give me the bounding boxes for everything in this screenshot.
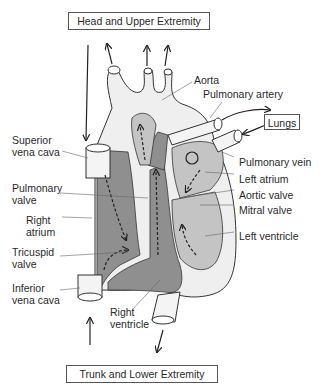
superior-vena-cava: [86, 144, 110, 178]
label-right-ventricle-line1: Right: [110, 306, 149, 318]
label-tricuspid-valve: Tricuspid valve: [12, 246, 54, 270]
label-right-atrium-line1: Right: [26, 214, 55, 226]
descending-aorta: [152, 292, 180, 324]
label-pulmonary-vein: Pulmonary vein: [239, 156, 311, 168]
label-aorta: Aorta: [194, 74, 219, 86]
label-right-atrium-line2: atrium: [26, 226, 55, 238]
label-aortic-valve: Aortic valve: [239, 189, 293, 201]
label-superior-line1: Superior: [12, 134, 60, 146]
label-inferior-line2: vena cava: [12, 294, 60, 306]
left-ventricle: [172, 192, 223, 270]
label-right-atrium: Right atrium: [26, 214, 55, 238]
label-superior-vena-cava: Superior vena cava: [12, 134, 60, 158]
label-left-ventricle: Left ventricle: [239, 230, 299, 242]
label-tricuspid-line2: valve: [12, 258, 54, 270]
head-upper-extremity-box: Head and Upper Extremity: [68, 12, 210, 30]
inferior-vena-cava: [78, 275, 102, 301]
label-superior-line2: vena cava: [12, 146, 60, 158]
label-pulmonary-valve-line1: Pulmonary: [12, 182, 62, 194]
label-left-atrium: Left atrium: [239, 173, 289, 185]
label-right-ventricle: Right ventricle: [110, 306, 149, 330]
trunk-lower-extremity-box: Trunk and Lower Extremity: [66, 365, 218, 383]
arch-vessel-1: [108, 66, 120, 74]
arch-vessel-2: [144, 68, 152, 74]
label-pulmonary-valve-line2: valve: [12, 194, 62, 206]
label-right-ventricle-line2: ventricle: [110, 318, 149, 330]
label-inferior-line1: Inferior: [12, 282, 60, 294]
label-tricuspid-line1: Tricuspid: [12, 246, 54, 258]
label-mitral-valve: Mitral valve: [239, 204, 292, 216]
label-pulmonary-valve: Pulmonary valve: [12, 182, 62, 206]
lungs-box: Lungs: [264, 114, 300, 130]
label-inferior-vena-cava: Inferior vena cava: [12, 282, 60, 306]
label-pulmonary-artery: Pulmonary artery: [203, 88, 283, 100]
arch-vessel-3: [164, 69, 172, 75]
